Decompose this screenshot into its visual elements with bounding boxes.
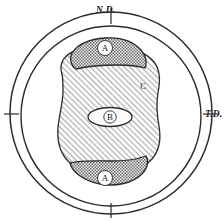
zone-a-bottom-label: A <box>102 173 109 183</box>
zone-c-label: C <box>140 81 146 91</box>
diagram-root: A B A C N.D. T.D. <box>0 0 224 221</box>
cross-section-figure: A B A C N.D. T.D. <box>0 0 224 221</box>
zone-a-top-label: A <box>102 43 109 53</box>
zone-b-label: B <box>107 112 113 122</box>
axis-label-td: T.D. <box>205 109 222 119</box>
axis-label-nd: N.D. <box>95 5 115 15</box>
